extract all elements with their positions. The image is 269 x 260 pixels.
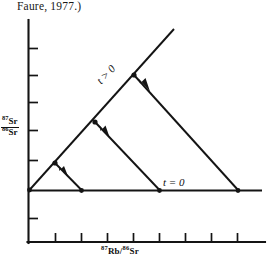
figure-caption: Faure, 1977.): [17, 0, 81, 12]
isochron-figure: Faure, 1977.) 87Sr 86Sr 87Rb/86Sr t > 0 …: [0, 0, 269, 260]
x-axis-denominator-element: Sr: [129, 246, 138, 256]
point-sample-2-isochron: [92, 119, 97, 124]
point-sample-1-isochron: [52, 160, 57, 165]
x-axis-numerator-element: Rb/: [108, 246, 123, 256]
point-sample-1-initial: [79, 188, 84, 193]
initial-line-annotation: t = 0: [163, 176, 184, 188]
y-axis-numerator-element: Sr: [9, 116, 18, 126]
y-axis-label: 87Sr 86Sr: [1, 117, 19, 137]
arrow-sample-2: [100, 126, 111, 139]
point-sample-3-isochron: [131, 72, 136, 77]
tie-line-sample-3: [134, 75, 238, 190]
x-axis-ticks: [56, 233, 238, 242]
tie-line-sample-1: [55, 163, 82, 190]
axis-lines: [28, 20, 266, 243]
evolution-arrows: [59, 78, 150, 178]
y-axis-denominator-element: Sr: [9, 127, 18, 137]
plot-canvas: [0, 0, 269, 260]
y-axis-label-denominator: 86Sr: [1, 128, 19, 138]
point-sample-3-initial: [236, 188, 241, 193]
x-axis-numerator-mass: 87: [101, 244, 108, 251]
sample-tie-lines: [55, 75, 238, 190]
x-axis-label: 87Rb/86Sr: [101, 246, 139, 256]
isochron-line: [29, 29, 174, 191]
arrow-sample-3: [139, 78, 151, 92]
tie-line-sample-2: [95, 122, 160, 190]
point-sample-2-initial: [157, 188, 162, 193]
data-points: [27, 72, 240, 193]
point-origin: [27, 188, 32, 193]
